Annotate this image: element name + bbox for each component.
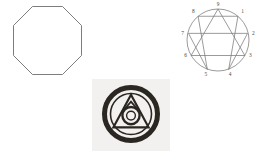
enneagram-hexad (188, 16, 247, 69)
enneagram-outer-circle (187, 9, 249, 71)
enneagram-label-6: 6 (184, 52, 187, 58)
enneagram-label-2: 2 (252, 30, 255, 36)
enneagram-svg: 9 1 2 3 4 5 6 7 8 (176, 1, 260, 81)
enneagram-label-8: 8 (192, 8, 195, 14)
octagon-shape (14, 7, 82, 75)
enneagram-label-4: 4 (229, 71, 232, 77)
enneagram-label-9: 9 (217, 1, 220, 7)
emblem-pupil (127, 111, 136, 120)
emblem-svg (92, 79, 170, 151)
octagon-svg (4, 2, 94, 86)
enneagram-label-7: 7 (181, 30, 184, 36)
emblem-figure (92, 79, 170, 151)
enneagram-label-3: 3 (249, 52, 252, 58)
octagon-figure (4, 2, 94, 86)
enneagram-label-5: 5 (204, 71, 207, 77)
enneagram-label-1: 1 (241, 8, 244, 14)
enneagram-figure: 9 1 2 3 4 5 6 7 8 (176, 1, 260, 81)
